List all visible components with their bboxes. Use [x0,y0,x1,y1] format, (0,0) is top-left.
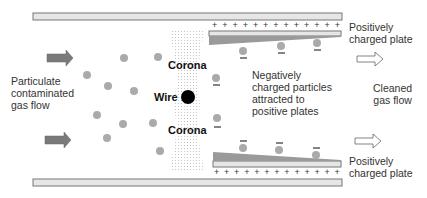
inlet-arrow-top [47,50,73,66]
outer-bottom-plate [33,179,342,186]
wire-label: Wire [154,91,178,103]
top-positive-plate [209,31,341,36]
wire [181,90,195,104]
outer-top-plate [33,13,342,20]
top-plate-label: Positively charged plate [349,21,413,45]
inlet-label: Particulate contaminated gas flow [11,75,74,111]
outlet-arrow-bottom [355,134,381,148]
particles [83,53,164,155]
corona-top-label: Corona [168,59,207,71]
outlet-arrow-top [357,52,383,66]
bottom-plate-charges: +++++++++++++ [214,167,340,177]
inlet-arrow-bottom [45,132,71,148]
middle-label: Negatively charged particles attracted t… [252,69,332,117]
bottom-plate-label: Positively charged plate [349,155,413,179]
top-collected-dust [209,36,341,45]
outlet-label: Cleaned gas flow [373,82,412,106]
corona-bottom-label: Corona [168,124,207,136]
top-plate-charges: +++++++++++++ [212,20,340,30]
